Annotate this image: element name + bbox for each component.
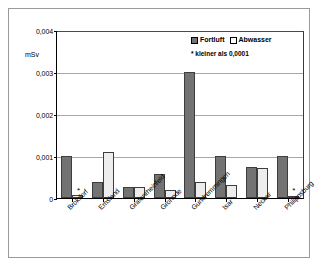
y-axis-unit-label: mSv [25,51,39,58]
bar-group [180,31,211,198]
bar-fortluft-grafenrheinfeld [123,187,134,198]
bar-fortluft-gundremmingen [184,72,195,198]
bar-series-container: ** [57,31,303,198]
bar-group [119,31,150,198]
ytick-label-0: 0 [49,196,53,203]
bar-fortluft-brokdorf [61,156,72,198]
bar-fortluft-neckar [246,167,257,198]
bar-abwasser-isar [226,185,237,198]
ytick-label-0.002: 0,002 [36,112,53,119]
bar-fortluft-emsland [92,182,103,198]
plot-area: 0,004 0,003 0,002 0,001 0 ** [56,31,304,199]
ytick-label-0.001: 0,001 [36,154,53,161]
chart-frame: mSv FortluftAbwasser * kleiner als 0,000… [8,8,310,258]
ytick-mark-0 [54,199,57,200]
bar-group: * [57,31,88,198]
ytick-label-0.004: 0,004 [36,28,53,35]
bar-group [242,31,273,198]
x-axis-label-isar: Isar [221,198,234,211]
bar-group [149,31,180,198]
bar-group: * [272,31,303,198]
ytick-label-0.003: 0,003 [36,70,53,77]
bar-fortluft-philippsburg [277,156,288,198]
bar-group [88,31,119,198]
